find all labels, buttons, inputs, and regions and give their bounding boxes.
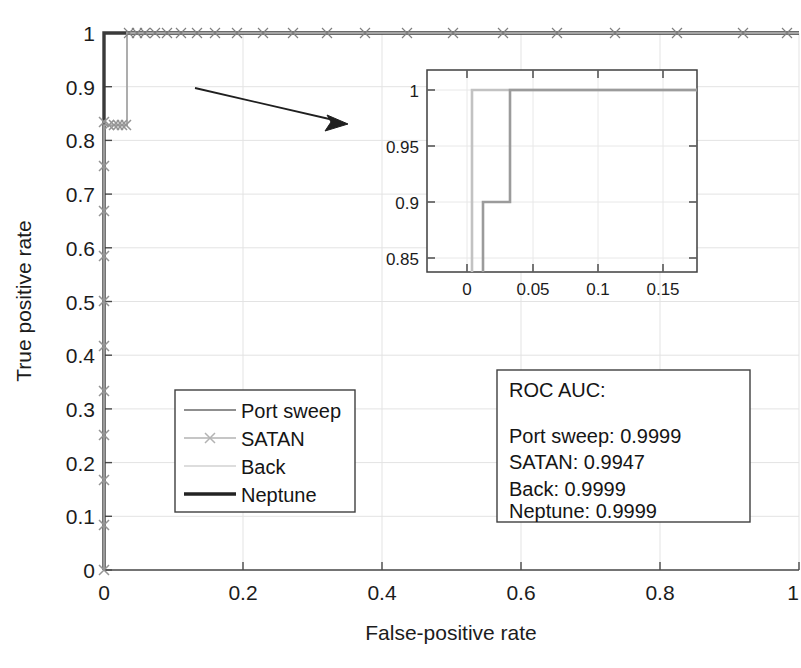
x-tick-label: 1 (787, 581, 799, 604)
y-tick-label: 0.9 (66, 76, 95, 99)
roc-auc-box: ROC AUC: Port sweep: 0.9999 SATAN: 0.994… (497, 370, 750, 522)
x-tick-label: 0 (98, 581, 110, 604)
x-tick-label: 0.6 (506, 581, 535, 604)
y-tick-label: 0.3 (66, 398, 95, 421)
auc-entry-port-sweep: Port sweep: 0.9999 (509, 425, 681, 447)
y-axis-title: True positive rate (12, 220, 35, 381)
main-x-ticks (104, 562, 799, 570)
roc-curve-figure: 1 0.9 0.8 0.7 0.6 0.5 0.4 0.3 0.2 0.1 0 … (0, 0, 801, 668)
inset-x-tick-label: 0.1 (586, 280, 610, 299)
y-tick-label: 0.4 (66, 344, 96, 367)
x-tick-label: 0.4 (367, 581, 397, 604)
y-tick-label: 0.8 (66, 129, 95, 152)
auc-entry-satan: SATAN: 0.9947 (509, 451, 645, 473)
y-tick-label: 1 (83, 22, 95, 45)
auc-entry-neptune: Neptune: 0.9999 (509, 500, 657, 522)
main-x-tick-labels: 0 0.2 0.4 0.6 0.8 1 (98, 581, 799, 604)
legend-label-port-sweep: Port sweep (241, 400, 341, 422)
legend-box: Port sweep SATAN Back Neptune (175, 390, 355, 512)
y-tick-label: 0.6 (66, 237, 95, 260)
x-axis-title: False-positive rate (365, 621, 537, 644)
inset-x-tick-labels: 0 0.05 0.1 0.15 (462, 280, 679, 299)
y-tick-label: 0.1 (66, 505, 95, 528)
inset-y-tick-label: 0.95 (386, 138, 419, 157)
y-tick-label: 0 (83, 559, 95, 582)
legend-label-back: Back (241, 456, 286, 478)
auc-entry-back: Back: 0.9999 (509, 478, 626, 500)
legend-label-neptune: Neptune (241, 484, 317, 506)
auc-heading: ROC AUC: (509, 379, 606, 401)
inset-y-tick-label: 1 (410, 82, 419, 101)
inset-x-tick-label: 0.05 (516, 280, 549, 299)
main-y-tick-labels: 1 0.9 0.8 0.7 0.6 0.5 0.4 0.3 0.2 0.1 0 (66, 22, 96, 582)
inset-y-tick-label: 0.9 (395, 194, 419, 213)
inset-axes (427, 70, 697, 272)
y-tick-label: 0.5 (66, 291, 95, 314)
inset-y-tick-label: 0.85 (386, 250, 419, 269)
y-tick-label: 0.2 (66, 452, 95, 475)
y-tick-label: 0.7 (66, 183, 95, 206)
legend-label-satan: SATAN (241, 428, 305, 450)
inset-pointer-arrow (195, 88, 348, 131)
x-tick-label: 0.8 (645, 581, 674, 604)
inset-x-tick-label: 0 (462, 280, 471, 299)
x-tick-label: 0.2 (228, 581, 257, 604)
inset-x-tick-label: 0.15 (646, 280, 679, 299)
chart-canvas: 1 0.9 0.8 0.7 0.6 0.5 0.4 0.3 0.2 0.1 0 … (0, 0, 801, 668)
inset-y-tick-labels: 1 0.95 0.9 0.85 (386, 82, 419, 269)
